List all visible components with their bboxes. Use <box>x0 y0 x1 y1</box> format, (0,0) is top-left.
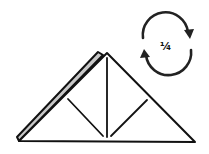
origami-diagram: ¼ <box>0 0 209 154</box>
rotation-amount-label: ¼ <box>160 40 171 53</box>
